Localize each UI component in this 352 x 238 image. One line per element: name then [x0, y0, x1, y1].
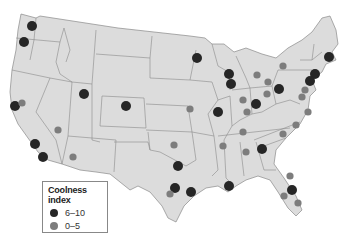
- city-dot-los-angeles: [30, 139, 40, 149]
- city-dot-tampa: [280, 192, 287, 199]
- city-dot-seattle: [27, 21, 37, 31]
- city-dot-kansas-city: [186, 105, 193, 112]
- city-dot-st-louis: [213, 107, 223, 117]
- city-dot-memphis: [219, 142, 226, 149]
- city-dot-richmond: [304, 108, 311, 115]
- legend-dot-low: [50, 222, 58, 230]
- city-dot-columbus: [263, 90, 270, 97]
- legend-label-low: 0–5: [65, 221, 80, 231]
- legend-label-high: 6–10: [65, 208, 85, 218]
- city-dot-sacramento: [18, 99, 25, 106]
- city-dot-salt-lake-city: [79, 89, 89, 99]
- city-dot-louisville: [243, 108, 250, 115]
- legend-item-low: 0–5: [48, 221, 102, 231]
- city-dot-detroit: [253, 71, 260, 78]
- city-dot-las-vegas: [54, 126, 61, 133]
- city-dot-dallas: [173, 161, 183, 171]
- city-dot-denver: [121, 101, 131, 111]
- city-dot-boston: [324, 52, 334, 62]
- city-dot-nashville: [239, 128, 246, 135]
- city-dot-new-orleans: [224, 181, 234, 191]
- city-dot-cleveland: [264, 78, 271, 85]
- city-dot-houston: [186, 187, 196, 197]
- city-dot-orlando: [287, 185, 297, 195]
- city-dot-buffalo: [279, 62, 286, 69]
- city-dot-baltimore: [301, 86, 308, 93]
- city-dot-chicago: [226, 79, 236, 89]
- legend-dot-high: [50, 209, 58, 217]
- city-dot-raleigh: [292, 121, 299, 128]
- city-dot-portland: [19, 37, 29, 47]
- legend-title: Coolness index: [48, 185, 102, 205]
- city-dot-minneapolis: [192, 53, 202, 63]
- legend: Coolness index 6–10 0–5: [42, 181, 108, 233]
- city-dot-birmingham: [242, 148, 249, 155]
- city-dot-milwaukee: [224, 69, 234, 79]
- legend-item-high: 6–10: [48, 208, 102, 218]
- city-dot-san-antonio: [166, 190, 173, 197]
- city-dot-phoenix: [69, 153, 76, 160]
- city-dot-jacksonville: [286, 172, 293, 179]
- city-dot-oklahoma-city: [170, 141, 177, 148]
- city-dot-charlotte: [279, 130, 286, 137]
- city-dot-san-diego: [38, 152, 48, 162]
- city-dot-pittsburgh: [274, 84, 284, 94]
- city-dot-washington: [298, 93, 305, 100]
- city-dot-miami: [294, 199, 301, 206]
- city-dot-cincinnati: [251, 99, 261, 109]
- city-dot-atlanta: [257, 144, 267, 154]
- city-dot-philadelphia: [305, 76, 315, 86]
- city-dot-indianapolis: [239, 96, 246, 103]
